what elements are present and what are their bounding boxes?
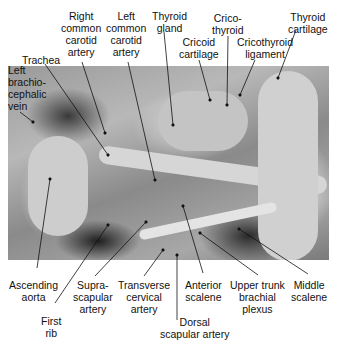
label-cricothyroid-ligament: Cricothyroid ligament <box>237 36 293 60</box>
label-upper-trunk-brachial-plexus: Upper trunk brachial plexus <box>230 279 285 315</box>
label-cricothyroid: Crico- thyroid <box>212 12 244 36</box>
label-left-common-carotid-artery: Left common carotid artery <box>106 10 146 58</box>
label-dorsal-scapular-artery: Dorsal scapular artery <box>160 316 229 340</box>
label-right-common-carotid-artery: Right common carotid artery <box>61 10 101 58</box>
label-ascending-aorta: Ascending aorta <box>9 279 58 303</box>
label-first-rib: First rib <box>41 315 61 339</box>
label-anterior-scalene: Anterior scalene <box>185 279 222 303</box>
label-transverse-cervical-artery: Transverse cervical artery <box>118 279 170 315</box>
label-middle-scalene: Middle scalene <box>291 279 327 303</box>
label-suprascapular-artery: Supra- scapular artery <box>73 279 113 315</box>
label-thyroid-gland: Thyroid gland <box>152 10 187 34</box>
label-left-brachiocephalic-vein: Left brachio- cephalic vein <box>8 64 47 112</box>
label-thyroid-cartilage: Thyroid cartilage <box>288 11 328 35</box>
label-cricoid-cartilage: Cricoid cartilage <box>179 36 219 60</box>
